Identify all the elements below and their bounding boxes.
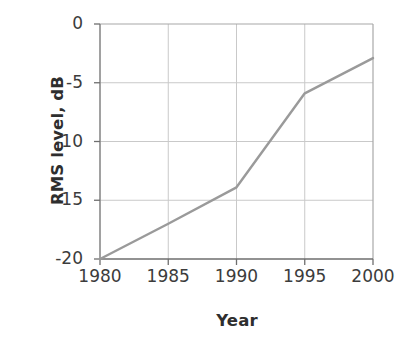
x-axis-title: Year (100, 311, 374, 330)
y-axis-title: RMS level, dB (48, 41, 67, 241)
x-tick-label: 2000 (328, 266, 414, 286)
chart-figure: 0-5-10-15-20 19801985199019952000 RMS le… (0, 0, 414, 354)
